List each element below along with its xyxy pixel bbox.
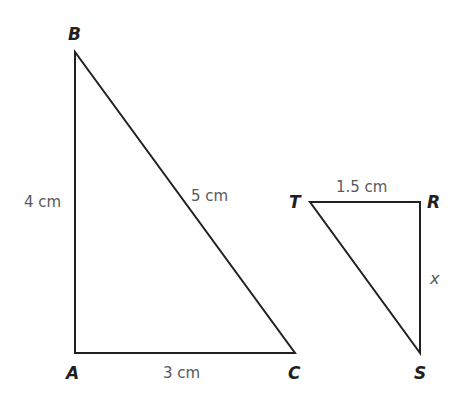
- vertex-t-label: T: [289, 192, 302, 212]
- side-bc-label: 5 cm: [191, 187, 228, 205]
- vertex-a-label: A: [64, 363, 79, 383]
- triangle-abc: B A C 4 cm 5 cm 3 cm: [24, 24, 301, 383]
- triangle-trs: T R S 1.5 cm x: [289, 178, 440, 383]
- side-ac-label: 3 cm: [163, 364, 200, 382]
- side-rs-label: x: [429, 269, 440, 288]
- similar-triangles-diagram: B A C 4 cm 5 cm 3 cm T R S 1.5 cm x: [0, 0, 468, 407]
- vertex-r-label: R: [427, 192, 440, 212]
- triangle-abc-shape: [75, 52, 295, 353]
- side-tr-label: 1.5 cm: [336, 178, 387, 196]
- triangle-trs-shape: [310, 202, 420, 353]
- side-ab-label: 4 cm: [24, 193, 61, 211]
- vertex-b-label: B: [68, 24, 81, 44]
- vertex-s-label: S: [414, 363, 426, 383]
- vertex-c-label: C: [288, 363, 301, 383]
